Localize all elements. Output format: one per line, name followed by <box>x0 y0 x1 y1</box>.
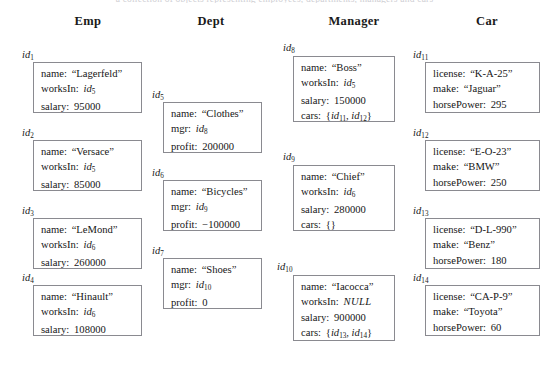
object-box-id8: name: “Boss”worksIn: id5salary: 150000ca… <box>293 56 395 122</box>
object-id-label-id12: id12 <box>413 128 428 139</box>
field-row: worksIn: id5 <box>41 159 134 176</box>
field-row: salary: 260000 <box>41 255 134 270</box>
field-key: horsePower: <box>433 322 486 333</box>
field-row: salary: 150000 <box>301 93 387 108</box>
object-box-id9: name: “Chief”worksIn: id6salary: 280000c… <box>293 165 395 231</box>
column-header-dept: Dept <box>197 14 224 29</box>
field-key: name: <box>171 108 197 119</box>
object-box-id6: name: “Bicycles”mgr: id9profit: −100000 <box>163 180 262 231</box>
field-key: salary: <box>41 324 69 335</box>
field-value: “Versace” <box>72 146 114 157</box>
field-value: 260000 <box>74 257 106 268</box>
field-value: id8 <box>196 123 208 134</box>
field-key: mgr: <box>171 279 191 290</box>
field-row: worksIn: id6 <box>301 184 387 201</box>
field-key: name: <box>301 281 327 292</box>
field-value: “Jaguar” <box>464 83 501 94</box>
object-id-label-id13: id13 <box>413 206 428 217</box>
field-row: salary: 95000 <box>41 99 134 114</box>
field-key: salary: <box>41 257 69 268</box>
field-key: license: <box>433 224 465 235</box>
field-key: salary: <box>301 95 329 106</box>
object-id-label-id11: id11 <box>413 50 428 61</box>
object-box-id4: name: “Hinault”worksIn: id6salary: 10800… <box>33 285 142 336</box>
field-value: 0 <box>202 297 207 308</box>
object-id-label-id9: id9 <box>283 152 295 163</box>
field-row: cars: {} <box>301 217 387 232</box>
field-value: id6 <box>83 239 95 250</box>
field-key: license: <box>433 146 465 157</box>
field-row: worksIn: id6 <box>41 237 134 254</box>
field-value: {} <box>326 219 336 230</box>
field-key: profit: <box>171 297 197 308</box>
field-row: cars: {id13, id14} <box>301 325 387 342</box>
field-row: mgr: id10 <box>171 277 254 294</box>
field-value: “Clothes” <box>202 108 244 119</box>
field-key: worksIn: <box>301 77 339 88</box>
field-row: name: “Shoes” <box>171 262 254 277</box>
field-key: make: <box>433 239 459 250</box>
object-id-label-id2: id2 <box>22 128 34 139</box>
field-value: {id11, id12} <box>326 110 372 121</box>
field-key: worksIn: <box>301 296 339 307</box>
field-row: horsePower: 250 <box>433 175 532 190</box>
field-row: profit: −100000 <box>171 217 254 232</box>
field-row: name: “Versace” <box>41 144 134 159</box>
field-row: profit: 200000 <box>171 139 254 154</box>
field-value: 60 <box>491 322 502 333</box>
field-row: salary: 900000 <box>301 310 387 325</box>
field-row: license: “K-A-25” <box>433 66 532 81</box>
field-key: worksIn: <box>41 161 79 172</box>
field-row: worksIn: id6 <box>41 304 134 321</box>
field-value: 900000 <box>334 312 366 323</box>
field-key: salary: <box>41 101 69 112</box>
field-value: “CA-P-9” <box>470 291 512 302</box>
field-row: worksIn: id5 <box>301 75 387 92</box>
field-key: make: <box>433 83 459 94</box>
object-id-label-id1: id1 <box>22 50 34 61</box>
field-value: −100000 <box>202 219 240 230</box>
set-item-idref: id12 <box>351 110 366 121</box>
field-value: “Toyota” <box>464 306 503 317</box>
field-row: worksIn: id5 <box>41 81 134 98</box>
field-key: name: <box>41 224 67 235</box>
column-header-emp: Emp <box>75 14 102 29</box>
object-id-label-id7: id7 <box>152 246 164 257</box>
field-key: name: <box>41 291 67 302</box>
field-row: license: “CA-P-9” <box>433 289 532 304</box>
field-key: profit: <box>171 219 197 230</box>
field-row: name: “LeMond” <box>41 222 134 237</box>
field-value: “E-O-23” <box>470 146 511 157</box>
object-box-id2: name: “Versace”worksIn: id5salary: 85000 <box>33 140 142 191</box>
field-value: “Benz” <box>464 239 495 250</box>
field-key: license: <box>433 291 465 302</box>
object-id-label-id4: id4 <box>22 273 34 284</box>
field-row: salary: 280000 <box>301 202 387 217</box>
field-value: id10 <box>196 279 211 290</box>
field-row: name: “Lagerfeld” <box>41 66 134 81</box>
field-value: “Iacocca” <box>332 281 374 292</box>
column-header-manager: Manager <box>328 14 379 29</box>
field-value: 108000 <box>74 324 106 335</box>
object-box-id13: license: “D-L-990”make: “Benz”horsePower… <box>425 218 540 269</box>
field-key: name: <box>41 68 67 79</box>
field-value: “LeMond” <box>72 224 118 235</box>
field-value: id5 <box>83 83 95 94</box>
field-row: license: “D-L-990” <box>433 222 532 237</box>
field-value: “K-A-25” <box>470 68 512 79</box>
field-value: 200000 <box>202 141 234 152</box>
set-item-idref: id11 <box>331 110 346 121</box>
field-value: id6 <box>343 186 355 197</box>
field-key: horsePower: <box>433 255 486 266</box>
field-value: 180 <box>491 255 507 266</box>
field-row: make: “Benz” <box>433 237 532 252</box>
field-key: mgr: <box>171 201 191 212</box>
field-row: profit: 0 <box>171 295 254 310</box>
field-key: license: <box>433 68 465 79</box>
column-header-car: Car <box>476 14 498 29</box>
field-key: horsePower: <box>433 99 486 110</box>
field-value: 150000 <box>334 95 366 106</box>
field-value: {id13, id14} <box>326 327 372 338</box>
field-key: name: <box>301 171 327 182</box>
cut-off-caption-text: a collection of objects representing emp… <box>0 0 549 3</box>
